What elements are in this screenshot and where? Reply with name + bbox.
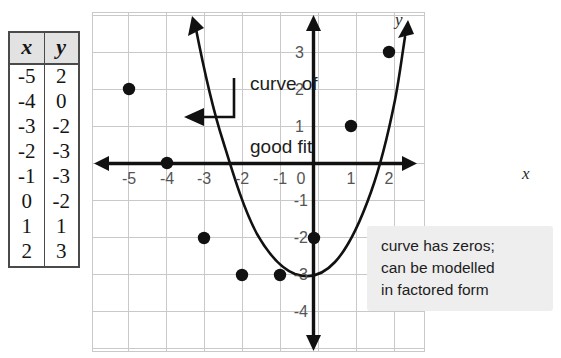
table-cell-x: 2 <box>9 240 44 267</box>
data-point <box>383 46 395 58</box>
table-row: 11 <box>9 215 79 240</box>
data-point <box>198 232 210 244</box>
table-cell-y: -2 <box>44 115 79 140</box>
table-cell-y: -3 <box>44 140 79 165</box>
table-cell-x: 0 <box>9 190 44 215</box>
note-callout-box: curve has zeros; can be modelled in fact… <box>367 226 553 311</box>
data-point <box>123 83 135 95</box>
data-point <box>308 232 320 244</box>
y-tick: -3 <box>294 266 308 283</box>
table-header-row: x y <box>9 32 79 64</box>
table-row: -1-3 <box>9 165 79 190</box>
data-point <box>236 269 248 281</box>
x-tick: 1 <box>347 170 356 187</box>
x-tick: 2 <box>385 170 394 187</box>
note-line-1: curve has zeros; <box>381 235 543 257</box>
table-cell-x: -1 <box>9 165 44 190</box>
table-header-y: y <box>44 32 79 64</box>
x-tick: -2 <box>235 170 249 187</box>
table-row: -52 <box>9 64 79 90</box>
table-cell-y: 2 <box>44 64 79 90</box>
table-header-x: x <box>9 32 44 64</box>
x-tick: -5 <box>122 170 136 187</box>
table-cell-y: 0 <box>44 90 79 115</box>
y-tick: -2 <box>294 229 308 246</box>
data-point <box>345 120 357 132</box>
table-cell-y: -2 <box>44 190 79 215</box>
y-axis-label: y <box>395 10 403 30</box>
table-cell-x: -3 <box>9 115 44 140</box>
note-line-3: in factored form <box>381 279 543 301</box>
x-tick: -4 <box>160 170 174 187</box>
table-cell-y: 3 <box>44 240 79 267</box>
note-line-2: can be modelled <box>381 257 543 279</box>
table-cell-x: 1 <box>9 215 44 240</box>
table-cell-x: -5 <box>9 64 44 90</box>
data-point <box>161 157 173 169</box>
table-row: -2-3 <box>9 140 79 165</box>
curve-of-good-fit-label: curve of good fit <box>250 30 318 200</box>
table-row: -40 <box>9 90 79 115</box>
table-row: 23 <box>9 240 79 267</box>
table-cell-y: -3 <box>44 165 79 190</box>
x-tick: -3 <box>197 170 211 187</box>
table-row: 0-2 <box>9 190 79 215</box>
table-cell-x: -4 <box>9 90 44 115</box>
data-point <box>274 269 286 281</box>
curve-label-line1: curve of <box>250 73 318 94</box>
xy-data-table: x y -52-40-3-2-2-3-1-30-21123 <box>8 31 80 268</box>
y-tick: -4 <box>294 303 308 320</box>
table-cell-x: -2 <box>9 140 44 165</box>
x-axis-label: x <box>522 164 530 184</box>
table-cell-y: 1 <box>44 215 79 240</box>
curve-label-line2: good fit <box>250 136 318 157</box>
table-row: -3-2 <box>9 115 79 140</box>
